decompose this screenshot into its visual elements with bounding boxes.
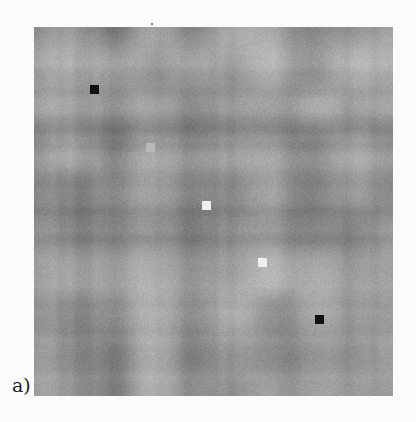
figure-page: a) (0, 0, 416, 422)
panel-label: a) (12, 374, 31, 396)
marker-2 (146, 143, 155, 152)
marker-3 (202, 201, 211, 210)
scan-speck (151, 23, 153, 25)
marker-4 (258, 258, 267, 267)
marker-1 (90, 85, 99, 94)
noise-matrix-image (34, 27, 393, 396)
marker-5 (315, 315, 324, 324)
noise-matrix-figure (34, 27, 393, 396)
